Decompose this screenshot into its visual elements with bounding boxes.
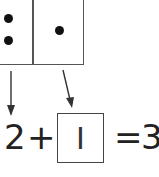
addend-2: I bbox=[76, 121, 85, 156]
plus-sign: + bbox=[27, 117, 56, 157]
answer-box: I bbox=[57, 113, 104, 163]
equals-sign: = bbox=[114, 117, 143, 157]
sum: 3 bbox=[141, 117, 159, 157]
addend-1: 2 bbox=[4, 117, 26, 157]
